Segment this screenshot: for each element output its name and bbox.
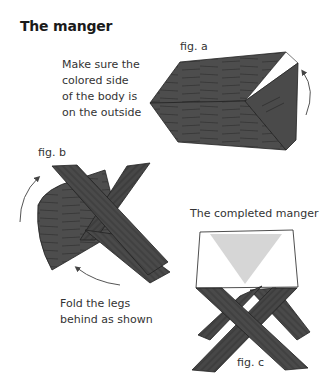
fig-b-illustration (20, 163, 170, 285)
fig-a-fold-arrow (303, 72, 310, 115)
fig-b-arrow-up (20, 178, 38, 222)
fig-c-illustration (192, 230, 310, 372)
fig-b-caption-line: Fold the legs (60, 296, 153, 312)
fig-c-label: fig. c (237, 356, 264, 369)
fig-b-caption-line: behind as shown (60, 312, 153, 328)
fig-a-box (150, 52, 310, 150)
fig-a-illustration (0, 0, 327, 383)
fig-b-arrow-bottom (77, 268, 120, 285)
fig-b-label: fig. b (38, 146, 66, 159)
fig-b-caption: Fold the legs behind as shown (60, 296, 153, 328)
fig-c-heading: The completed manger (190, 206, 319, 222)
